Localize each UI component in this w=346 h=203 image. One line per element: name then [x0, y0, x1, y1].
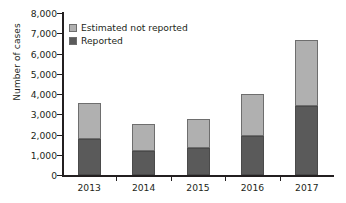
chart-legend: Estimated not reportedReported	[69, 21, 188, 47]
legend-swatch-icon	[69, 37, 77, 45]
y-axis-tick-label: 3,000	[13, 109, 57, 120]
x-axis-tick-label: 2014	[132, 182, 155, 193]
y-axis-tick-label: 0	[13, 170, 57, 181]
bar-segment-estimated-not-reported[interactable]	[241, 94, 264, 136]
y-axis-tick-label: 5,000	[13, 68, 57, 79]
bar-segment-reported[interactable]	[241, 136, 264, 175]
y-axis-tick-label: 6,000	[13, 48, 57, 59]
bar-group[interactable]	[187, 13, 210, 175]
y-axis-tick-label: 4,000	[13, 89, 57, 100]
legend-swatch-icon	[69, 24, 77, 32]
x-axis-tick-mark	[116, 176, 117, 181]
bar-segment-estimated-not-reported[interactable]	[295, 40, 318, 106]
legend-item[interactable]: Estimated not reported	[69, 21, 188, 34]
y-axis-tick-mark	[57, 175, 62, 176]
y-axis-tick-label: 1,000	[13, 149, 57, 160]
bar-segment-estimated-not-reported[interactable]	[78, 103, 101, 139]
x-axis-tick-label: 2017	[295, 182, 318, 193]
bar-segment-estimated-not-reported[interactable]	[187, 119, 210, 148]
bar-group[interactable]	[295, 13, 318, 175]
y-axis-tick-label: 8,000	[13, 8, 57, 19]
legend-item-label: Reported	[81, 35, 123, 46]
x-axis-tick-mark	[171, 176, 172, 181]
bar-segment-reported[interactable]	[78, 139, 101, 175]
bar-group[interactable]	[241, 13, 264, 175]
x-axis-tick-mark	[280, 176, 281, 181]
x-axis-tick-mark	[225, 176, 226, 181]
legend-item-label: Estimated not reported	[81, 22, 188, 33]
legend-item[interactable]: Reported	[69, 34, 188, 47]
x-axis-tick-label: 2016	[241, 182, 264, 193]
bar-segment-estimated-not-reported[interactable]	[132, 124, 155, 151]
bar-segment-reported[interactable]	[187, 148, 210, 175]
y-axis-tick-label: 7,000	[13, 28, 57, 39]
stacked-bar-chart: Number of cases 8,0007,0006,0005,0004,00…	[0, 0, 346, 203]
x-axis-tick-label: 2013	[77, 182, 100, 193]
y-axis-tick-label: 2,000	[13, 129, 57, 140]
x-axis-tick-label: 2015	[186, 182, 209, 193]
bar-segment-reported[interactable]	[132, 151, 155, 175]
bar-segment-reported[interactable]	[295, 106, 318, 175]
x-axis-line	[62, 175, 334, 177]
